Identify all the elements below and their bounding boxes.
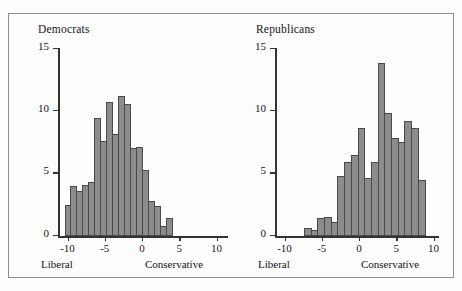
x-tick-neg10 xyxy=(68,236,69,241)
x-tick-neg10 xyxy=(285,236,286,241)
x-tick-10 xyxy=(434,236,435,241)
x-tick-0 xyxy=(359,236,360,241)
y-tick-label-15: 15 xyxy=(38,40,49,52)
y-tick-label-5: 5 xyxy=(44,164,50,176)
x-tick-label-5: 5 xyxy=(394,242,400,254)
x-tick-neg5 xyxy=(322,236,323,241)
bar-group-democrats xyxy=(58,48,218,236)
label-conservative-democrats: Conservative xyxy=(145,258,203,270)
x-tick-label-10: 10 xyxy=(428,242,439,254)
y-tick-label-10: 10 xyxy=(38,102,49,114)
x-tick-label-neg5: -5 xyxy=(100,242,109,254)
bar-group-republicans xyxy=(275,48,435,236)
panel-title-republicans: Republicans xyxy=(256,23,315,35)
histogram-bar xyxy=(418,180,426,236)
x-tick-label-0: 0 xyxy=(356,242,362,254)
x-tick-label-neg10: -10 xyxy=(60,242,75,254)
label-liberal-republicans: Liberal xyxy=(258,258,290,270)
x-tick-label-neg5: -5 xyxy=(317,242,326,254)
x-tick-label-neg10: -10 xyxy=(277,242,292,254)
histogram-bar xyxy=(166,218,173,236)
x-axis-line xyxy=(275,236,439,238)
y-tick-label-5: 5 xyxy=(261,164,267,176)
plot-area-republicans: 0 5 10 15 -10 -5 0 5 xyxy=(275,48,435,236)
x-tick-0 xyxy=(142,236,143,241)
y-tick-label-10: 10 xyxy=(255,102,266,114)
panel-democrats: Democrats 0 5 10 15 -10 xyxy=(11,14,236,279)
y-tick-label-0: 0 xyxy=(261,227,267,239)
x-tick-label-0: 0 xyxy=(139,242,145,254)
x-tick-label-10: 10 xyxy=(211,242,222,254)
figure-frame: Democrats 0 5 10 15 -10 xyxy=(8,13,454,278)
x-tick-5 xyxy=(179,236,180,241)
figure-canvas: Democrats 0 5 10 15 -10 xyxy=(0,0,462,291)
panel-republicans: Republicans 0 5 10 15 -10 xyxy=(228,14,453,279)
panel-title-democrats: Democrats xyxy=(38,23,90,35)
label-liberal-democrats: Liberal xyxy=(41,258,73,270)
x-tick-label-5: 5 xyxy=(177,242,183,254)
x-tick-10 xyxy=(217,236,218,241)
y-tick-label-15: 15 xyxy=(255,40,266,52)
label-conservative-republicans: Conservative xyxy=(361,258,419,270)
y-tick-label-0: 0 xyxy=(44,227,50,239)
x-tick-5 xyxy=(396,236,397,241)
x-tick-neg5 xyxy=(105,236,106,241)
plot-area-democrats: 0 5 10 15 -10 -5 0 5 xyxy=(58,48,218,236)
